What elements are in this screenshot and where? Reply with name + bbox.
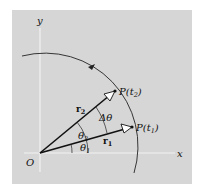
r2-label: r2 [76, 104, 85, 116]
p-t1-label: P(t1) [135, 122, 159, 135]
r1-label: r1 [103, 136, 112, 148]
origin-label: O [26, 157, 34, 168]
p-t2-label: P(t2) [118, 86, 142, 99]
x-axis-label: x [177, 148, 183, 159]
theta1-arc [71, 144, 72, 153]
r1-arrowhead-icon [121, 124, 132, 133]
y-axis-label: y [36, 15, 43, 26]
delta-theta-label: Δθ [98, 112, 112, 123]
point-p-t2 [113, 89, 116, 92]
polar-diagram: y x O P(t2) P(t1) r2 r1 θ2 θ1 Δθ [0, 0, 199, 191]
vector-r2 [40, 95, 110, 153]
point-p-t1 [130, 125, 133, 128]
